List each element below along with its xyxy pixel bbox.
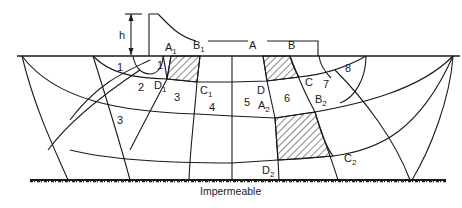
label-b1: B1 bbox=[193, 39, 205, 54]
label-d2: D2 bbox=[262, 164, 275, 179]
equipotential-lines bbox=[22, 56, 453, 180]
field-number: 1 bbox=[157, 59, 163, 71]
field-number: 8 bbox=[345, 62, 351, 74]
field-number: 7 bbox=[323, 78, 329, 90]
label-a1: A1 bbox=[165, 41, 177, 56]
hatched-element-a2b2 bbox=[275, 112, 333, 160]
label-b: B bbox=[288, 39, 295, 51]
impermeable-boundary bbox=[30, 180, 446, 182]
label-a: A bbox=[249, 39, 257, 51]
head-dimension: h bbox=[119, 14, 142, 55]
flow-net-labels: D1 C1 D C A2 B2 D2 C2 bbox=[154, 76, 357, 179]
label-b2: B2 bbox=[315, 93, 327, 108]
field-number: 2 bbox=[138, 81, 144, 93]
label-c: C bbox=[305, 76, 313, 88]
field-number: 6 bbox=[284, 92, 290, 104]
field-number: 1 bbox=[117, 61, 123, 73]
flow-net-diagram: h A1 B1 A B bbox=[0, 0, 462, 208]
flow-lines bbox=[22, 56, 453, 163]
head-label: h bbox=[119, 29, 125, 41]
field-number: 4 bbox=[209, 101, 215, 113]
label-c1: C1 bbox=[200, 84, 213, 99]
field-number: 3 bbox=[174, 91, 180, 103]
field-number: 5 bbox=[244, 96, 250, 108]
label-c2: C2 bbox=[344, 152, 357, 167]
hatched-element-a1b1 bbox=[167, 56, 200, 82]
impermeable-label: Impermeable bbox=[200, 185, 261, 197]
label-a2: A2 bbox=[258, 99, 270, 114]
field-number: 3 bbox=[117, 114, 123, 126]
label-d: D bbox=[257, 84, 265, 96]
